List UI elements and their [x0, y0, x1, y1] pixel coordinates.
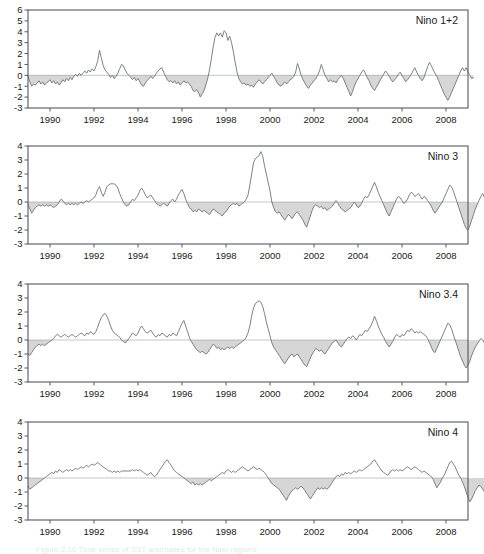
svg-text:-2: -2 — [14, 362, 22, 373]
svg-text:1996: 1996 — [171, 388, 192, 399]
svg-text:0: 0 — [17, 196, 22, 207]
svg-text:1: 1 — [17, 182, 22, 193]
svg-text:2: 2 — [17, 168, 22, 179]
svg-text:1996: 1996 — [171, 250, 192, 261]
svg-text:1992: 1992 — [83, 114, 104, 125]
svg-text:2006: 2006 — [391, 114, 412, 125]
svg-text:2004: 2004 — [347, 250, 368, 261]
svg-text:-2: -2 — [14, 224, 22, 235]
svg-text:Nino 3: Nino 3 — [428, 150, 459, 162]
svg-text:1996: 1996 — [171, 114, 192, 125]
svg-text:-1: -1 — [14, 486, 22, 497]
svg-text:3: 3 — [17, 154, 22, 165]
svg-text:2002: 2002 — [303, 388, 324, 399]
svg-text:1994: 1994 — [127, 526, 148, 537]
figure-caption: Figure 2.10 Time series of SST anomalies… — [36, 545, 476, 554]
svg-text:0: 0 — [17, 70, 22, 81]
svg-text:Nino 1+2: Nino 1+2 — [416, 14, 458, 26]
svg-text:-3: -3 — [14, 102, 22, 113]
svg-text:4: 4 — [17, 278, 22, 289]
svg-text:1998: 1998 — [215, 526, 236, 537]
nino-sst-anomaly-figure: -3-2-10123456199019921994199619982000200… — [0, 0, 484, 554]
svg-text:2006: 2006 — [391, 388, 412, 399]
svg-text:2: 2 — [17, 444, 22, 455]
svg-text:-2: -2 — [14, 500, 22, 511]
svg-text:-3: -3 — [14, 514, 22, 525]
panel-nino-4: -3-2-10123419901992199419961998200020022… — [0, 412, 484, 546]
svg-text:2002: 2002 — [303, 526, 324, 537]
svg-text:-1: -1 — [14, 81, 22, 92]
svg-text:3: 3 — [17, 292, 22, 303]
svg-text:1992: 1992 — [83, 526, 104, 537]
svg-text:1990: 1990 — [39, 526, 60, 537]
svg-text:1994: 1994 — [127, 114, 148, 125]
svg-text:1994: 1994 — [127, 250, 148, 261]
svg-text:0: 0 — [17, 334, 22, 345]
svg-text:-3: -3 — [14, 238, 22, 249]
svg-text:2008: 2008 — [435, 114, 456, 125]
svg-text:Nino 3.4: Nino 3.4 — [419, 288, 458, 300]
panel-nino-3: -3-2-10123419901992199419961998200020022… — [0, 136, 484, 270]
svg-text:2004: 2004 — [347, 114, 368, 125]
panel-nino-1plus2: -3-2-10123456199019921994199619982000200… — [0, 0, 484, 134]
svg-text:1: 1 — [17, 458, 22, 469]
svg-text:-1: -1 — [14, 210, 22, 221]
svg-text:2006: 2006 — [391, 250, 412, 261]
svg-text:2: 2 — [17, 48, 22, 59]
svg-text:2000: 2000 — [259, 114, 280, 125]
svg-text:1: 1 — [17, 320, 22, 331]
svg-text:2008: 2008 — [435, 250, 456, 261]
svg-text:2004: 2004 — [347, 526, 368, 537]
svg-text:2002: 2002 — [303, 114, 324, 125]
svg-text:4: 4 — [17, 416, 22, 427]
svg-text:Nino 4: Nino 4 — [428, 426, 459, 438]
svg-text:1990: 1990 — [39, 388, 60, 399]
svg-text:1994: 1994 — [127, 388, 148, 399]
svg-text:2006: 2006 — [391, 526, 412, 537]
svg-text:-2: -2 — [14, 91, 22, 102]
svg-text:1996: 1996 — [171, 526, 192, 537]
svg-text:1998: 1998 — [215, 388, 236, 399]
svg-text:2000: 2000 — [259, 526, 280, 537]
svg-text:1998: 1998 — [215, 250, 236, 261]
svg-text:1: 1 — [17, 59, 22, 70]
svg-text:2008: 2008 — [435, 526, 456, 537]
svg-text:3: 3 — [17, 37, 22, 48]
svg-text:1998: 1998 — [215, 114, 236, 125]
svg-text:-3: -3 — [14, 376, 22, 387]
svg-text:2004: 2004 — [347, 388, 368, 399]
svg-text:5: 5 — [17, 15, 22, 26]
svg-text:3: 3 — [17, 430, 22, 441]
svg-text:2: 2 — [17, 306, 22, 317]
panel-nino-3p4: -3-2-10123419901992199419961998200020022… — [0, 274, 484, 408]
svg-text:1990: 1990 — [39, 114, 60, 125]
svg-text:2000: 2000 — [259, 388, 280, 399]
svg-text:0: 0 — [17, 472, 22, 483]
svg-text:4: 4 — [17, 140, 22, 151]
svg-text:4: 4 — [17, 26, 22, 37]
svg-text:2000: 2000 — [259, 250, 280, 261]
svg-text:1992: 1992 — [83, 250, 104, 261]
svg-text:-1: -1 — [14, 348, 22, 359]
svg-text:1992: 1992 — [83, 388, 104, 399]
svg-text:2008: 2008 — [435, 388, 456, 399]
svg-text:2002: 2002 — [303, 250, 324, 261]
svg-text:1990: 1990 — [39, 250, 60, 261]
svg-text:6: 6 — [17, 4, 22, 15]
